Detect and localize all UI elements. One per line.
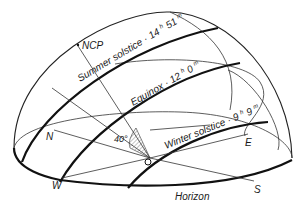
equinox-text: Equinox [129, 80, 167, 108]
celestial-sphere-diagram: NCP Summer solstice · 14 h 51 m Equinox … [0, 0, 301, 209]
equinox-label: Equinox · 12 h 0 m [127, 56, 202, 108]
ncp-point [77, 44, 79, 46]
west-label: W [52, 180, 63, 191]
winter-m-unit: m [252, 103, 259, 110]
ncp-label: NCP [82, 40, 103, 51]
horizon-back [14, 112, 292, 158]
north-label: N [46, 131, 54, 142]
winter-text: Winter solstice [163, 116, 228, 151]
observer-point [145, 159, 151, 165]
summer-minutes: 51 [164, 16, 179, 31]
latitude-angle-wedge [129, 128, 150, 158]
east-label: E [245, 137, 252, 148]
south-label: S [254, 184, 261, 195]
latitude-angle-label: 40° [114, 134, 128, 144]
horizon-label: Horizon [175, 191, 210, 202]
winter-h-unit: h [239, 108, 245, 115]
equinox-m-unit: m [192, 59, 199, 67]
line-o-s [150, 158, 254, 181]
